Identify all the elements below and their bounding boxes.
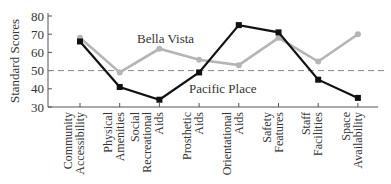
x-tick-label: ProstheticAids: [180, 112, 206, 160]
data-point: [117, 69, 123, 75]
x-tick-label-line: Aids: [152, 112, 166, 135]
y-tick-label: 60: [31, 45, 44, 60]
data-point: [236, 62, 242, 68]
x-tick-label-line: Aids: [192, 112, 206, 135]
x-tick-label: SocialRecreationalAids: [128, 111, 166, 172]
y-tick-label: 80: [31, 9, 44, 24]
x-axis: CommunityAccessibilityPhysicalAmenitiesS…: [48, 103, 378, 175]
x-tick-label: SafetyFeatures: [260, 112, 286, 153]
data-point: [355, 95, 361, 101]
y-axis: 304050607080: [31, 9, 52, 115]
y-tick-label: 70: [31, 27, 44, 42]
x-tick-label-line: Aids: [232, 112, 246, 135]
x-tick-label: StaffFacilities: [299, 112, 325, 156]
line-chart: 304050607080 CommunityAccessibilityPhysi…: [0, 0, 391, 184]
x-tick-label-line: Availability: [351, 112, 365, 168]
annotation-pacific-place: Pacific Place: [189, 81, 257, 96]
x-tick-label-line: Amenities: [113, 112, 127, 162]
data-point: [236, 22, 242, 28]
data-point: [276, 29, 282, 35]
data-point: [315, 59, 321, 65]
annotation-bella-vista: Bella Vista: [137, 31, 194, 46]
x-tick-label-line: Features: [272, 112, 286, 153]
x-tick-label: PhysicalAmenities: [101, 111, 127, 161]
y-tick-label: 40: [31, 81, 44, 96]
data-point: [156, 97, 162, 103]
x-tick-label: CommunityAccessibility: [61, 112, 87, 175]
data-point: [77, 38, 83, 44]
data-point: [196, 69, 202, 75]
x-tick-label: SpaceAvailability: [339, 112, 365, 168]
x-tick-label: OrientationalAids: [220, 111, 246, 175]
data-point: [196, 57, 202, 63]
data-point: [117, 84, 123, 90]
y-axis-label: Standard Scores: [7, 19, 22, 103]
data-point: [315, 77, 321, 83]
data-point: [355, 31, 361, 37]
series-bella-vista: [77, 31, 361, 75]
data-point: [156, 46, 162, 52]
series-line: [80, 34, 358, 72]
y-tick-label: 30: [31, 100, 44, 115]
x-tick-label-line: Facilities: [311, 112, 325, 156]
x-tick-label-line: Accessibility: [73, 112, 87, 175]
y-tick-label: 50: [31, 63, 44, 78]
